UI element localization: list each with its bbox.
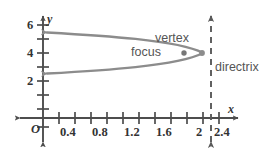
x-axis bbox=[20, 112, 238, 124]
x-tick-label-2: 2 bbox=[196, 126, 202, 139]
x-tick-label-16: 1.6 bbox=[156, 126, 172, 139]
focus-point bbox=[181, 50, 186, 55]
origin-label: O bbox=[31, 123, 40, 136]
y-tick-label-6: 6 bbox=[27, 19, 33, 32]
vertex-label: vertex bbox=[155, 32, 189, 45]
x-tick-label-12: 1.2 bbox=[124, 126, 140, 139]
y-tick-label-4: 4 bbox=[27, 47, 33, 60]
x-tick-label-08: 0.8 bbox=[92, 126, 108, 139]
parabola-figure: 6 4 2 0.4 0.8 1.2 1.6 2 2.4 y x O vertex… bbox=[0, 0, 259, 154]
focus-label: focus bbox=[131, 46, 161, 59]
vertex-point bbox=[199, 50, 205, 56]
x-tick-label-24: 2.4 bbox=[214, 126, 230, 139]
y-tick-label-2: 2 bbox=[27, 75, 33, 88]
directrix-label: directrix bbox=[215, 61, 259, 74]
x-axis-label: x bbox=[228, 103, 234, 115]
y-axis-label: y bbox=[47, 13, 52, 25]
x-tick-label-04: 0.4 bbox=[60, 126, 76, 139]
